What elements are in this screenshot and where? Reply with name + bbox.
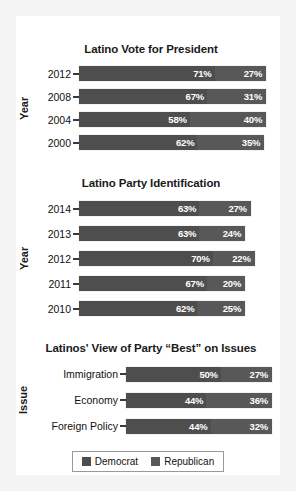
bar-segment-republican: 31% [207, 89, 266, 104]
bar-value-democrat: 67% [186, 278, 204, 289]
bar-track: 44% 36% [126, 393, 272, 408]
bar-segment-democrat: 44% [126, 419, 211, 434]
bar-row: 2012 71% 27% [31, 62, 270, 85]
plot-area: Year 2012 71% 27% [16, 62, 280, 154]
bar-value-republican: 31% [244, 91, 262, 102]
bar-value-republican: 27% [244, 68, 262, 79]
bar-value-democrat: 58% [168, 114, 186, 125]
bar-row: 2012 70% 22% [31, 246, 270, 271]
bar-row: 2000 62% 35% [31, 131, 270, 154]
bar-row: Foreign Policy 44% 32% [30, 413, 272, 439]
y-axis-title: Year [16, 196, 31, 321]
stacked-bar[interactable]: 62% 25% [79, 301, 245, 316]
bar-value-republican: 20% [223, 278, 241, 289]
y-tick-label: 2011 [31, 278, 73, 290]
bar-segment-republican: 24% [199, 226, 245, 241]
bar-segment-republican: 36% [206, 393, 272, 408]
legend: Democrat Republican [72, 451, 224, 472]
bar-segment-democrat: 50% [126, 367, 221, 382]
bar-track: 44% 32% [126, 419, 272, 434]
chart-latinos-view-of-party-best-on-issues: Latinos' View of Party “Best” on Issues … [16, 321, 280, 439]
legend-swatch-democrat [82, 457, 91, 466]
bar-track: 58% 40% [79, 112, 270, 127]
bar-segment-democrat: 62% [79, 135, 197, 150]
bar-row: 2010 62% 25% [31, 296, 270, 321]
bar-track: 50% 27% [126, 367, 272, 382]
stacked-bar[interactable]: 70% 22% [79, 251, 255, 266]
bar-track: 63% 24% [79, 226, 270, 241]
stacked-bar[interactable]: 50% 27% [126, 367, 272, 382]
stacked-bar[interactable]: 44% 32% [126, 419, 272, 434]
bar-value-republican: 36% [250, 395, 268, 406]
legend-item-democrat[interactable]: Democrat [82, 456, 138, 467]
stacked-bar[interactable]: 63% 24% [79, 226, 245, 241]
bar-segment-democrat: 44% [126, 393, 206, 408]
bar-track: 62% 35% [79, 135, 270, 150]
figure-panel: Latino Vote for President Year 2012 71% [16, 16, 280, 475]
y-axis-title: Issue [16, 361, 30, 439]
bar-segment-democrat: 63% [79, 201, 199, 216]
y-tick-label: 2014 [31, 203, 73, 215]
bar-rows: 2012 71% 27% [31, 62, 270, 154]
chart-title: Latinos' View of Party “Best” on Issues [16, 341, 280, 355]
y-tick-label: 2010 [31, 303, 73, 315]
bar-row: 2014 63% 27% [31, 196, 270, 221]
stacked-bar[interactable]: 58% 40% [79, 112, 266, 127]
y-tick-label: 2008 [31, 91, 73, 103]
bar-value-democrat: 62% [176, 137, 194, 148]
bar-track: 71% 27% [79, 66, 270, 81]
bar-value-democrat: 63% [178, 203, 196, 214]
y-tick-label: 2012 [31, 68, 73, 80]
bar-segment-republican: 35% [197, 135, 264, 150]
chart-title: Latino Party Identification [16, 176, 280, 190]
bar-row: 2008 67% 31% [31, 85, 270, 108]
bar-segment-republican: 20% [207, 276, 245, 291]
bar-rows: Immigration 50% 27% [30, 361, 272, 439]
bar-row: 2011 67% 20% [31, 271, 270, 296]
bar-segment-republican: 40% [190, 112, 266, 127]
bar-value-democrat: 70% [191, 253, 209, 264]
bar-segment-republican: 27% [199, 201, 251, 216]
legend-label-republican: Republican [164, 456, 214, 467]
y-tick-label: 2013 [31, 228, 73, 240]
bar-track: 63% 27% [79, 201, 270, 216]
y-axis-title: Year [16, 62, 31, 154]
bar-value-democrat: 71% [193, 68, 211, 79]
bar-segment-democrat: 67% [79, 89, 207, 104]
bar-segment-democrat: 71% [79, 66, 215, 81]
stacked-bar[interactable]: 44% 36% [126, 393, 272, 408]
bar-value-democrat: 63% [178, 228, 196, 239]
bar-value-democrat: 44% [189, 421, 207, 432]
legend-item-republican[interactable]: Republican [151, 456, 214, 467]
bar-value-democrat: 67% [186, 91, 204, 102]
bar-rows: 2014 63% 27% [31, 196, 270, 321]
bar-segment-democrat: 62% [79, 301, 197, 316]
bar-segment-democrat: 63% [79, 226, 199, 241]
bar-segment-republican: 27% [215, 66, 267, 81]
bar-value-republican: 35% [242, 137, 260, 148]
figure-page: Latino Vote for President Year 2012 71% [0, 0, 296, 491]
stacked-bar[interactable]: 62% 35% [79, 135, 264, 150]
stacked-bar[interactable]: 67% 20% [79, 276, 245, 291]
bar-row: Immigration 50% 27% [30, 361, 272, 387]
bar-value-republican: 24% [223, 228, 241, 239]
legend-wrapper: Democrat Republican [16, 451, 280, 472]
stacked-bar[interactable]: 63% 27% [79, 201, 251, 216]
bar-segment-democrat: 70% [79, 251, 213, 266]
bar-value-republican: 27% [250, 369, 268, 380]
y-tick-label: Foreign Policy [30, 420, 120, 432]
chart-latino-vote-for-president: Latino Vote for President Year 2012 71% [16, 16, 280, 154]
bar-row: 2013 63% 24% [31, 221, 270, 246]
stacked-bar[interactable]: 67% 31% [79, 89, 266, 104]
bar-value-democrat: 44% [185, 395, 203, 406]
legend-swatch-republican [151, 457, 160, 466]
chart-title: Latino Vote for President [16, 42, 280, 56]
bar-row: Economy 44% 36% [30, 387, 272, 413]
legend-label-democrat: Democrat [95, 456, 138, 467]
bar-value-republican: 22% [232, 253, 250, 264]
y-tick-label: Economy [30, 394, 120, 406]
stacked-bar[interactable]: 71% 27% [79, 66, 266, 81]
bar-track: 70% 22% [79, 251, 270, 266]
bar-value-republican: 40% [244, 114, 262, 125]
plot-area: Issue Immigration 50% 27% [16, 361, 280, 439]
